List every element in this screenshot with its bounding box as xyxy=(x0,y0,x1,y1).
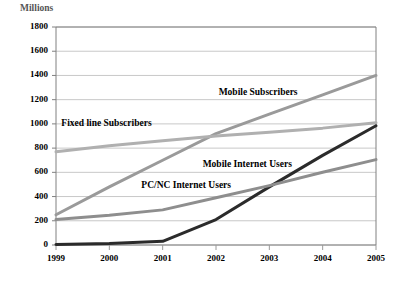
y-tick-marks xyxy=(52,27,56,245)
y-tick-label: 800 xyxy=(14,142,48,152)
y-tick-label: 200 xyxy=(14,215,48,225)
x-tick-label: 2004 xyxy=(303,253,343,263)
x-tick-label: 2001 xyxy=(143,253,183,263)
series-label-pc-nc-internet-users: PC/NC Internet Users xyxy=(141,180,231,190)
y-tick-label: 1600 xyxy=(14,45,48,55)
y-tick-label: 1000 xyxy=(14,118,48,128)
y-tick-label: 0 xyxy=(14,239,48,249)
x-tick-label: 2000 xyxy=(89,253,129,263)
x-tick-marks xyxy=(56,245,376,250)
series-label-mobile-subscribers: Mobile Subscribers xyxy=(219,87,298,97)
series-label-fixed-line-subscribers: Fixed line Subscribers xyxy=(61,118,151,128)
chart-canvas xyxy=(0,0,410,285)
y-tick-label: 1400 xyxy=(14,69,48,79)
x-tick-label: 2005 xyxy=(356,253,396,263)
y-tick-label: 1800 xyxy=(14,21,48,31)
y-tick-label: 600 xyxy=(14,166,48,176)
x-tick-label: 1999 xyxy=(36,253,76,263)
x-tick-label: 2002 xyxy=(196,253,236,263)
y-tick-label: 400 xyxy=(14,191,48,201)
x-tick-label: 2003 xyxy=(249,253,289,263)
series-label-mobile-internet-users: Mobile Internet Users xyxy=(203,159,292,169)
line-chart: Millions 0200400600800100012001400160018… xyxy=(0,0,410,285)
y-tick-label: 1200 xyxy=(14,94,48,104)
